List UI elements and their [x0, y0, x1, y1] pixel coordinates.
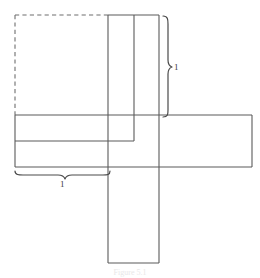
right-brace-group — [163, 16, 172, 117]
dashed-square-group — [15, 15, 108, 115]
bottom-brace — [15, 171, 110, 179]
figure-container: 1 1 Figure 5.1 — [0, 0, 260, 278]
right-brace — [163, 16, 172, 117]
vertical-strip-group — [108, 15, 159, 263]
geometry-diagram-canvas — [0, 0, 260, 278]
figure-caption: Figure 5.1 — [0, 269, 260, 277]
bottom-brace-group — [15, 171, 110, 179]
dimension-label-right: 1 — [174, 63, 179, 72]
dimension-label-bottom: 1 — [60, 180, 65, 189]
